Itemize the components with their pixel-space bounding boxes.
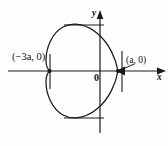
cardioid-figure: (−3a, 0) (a, 0) 0 y x — [0, 0, 168, 146]
plot-canvas — [0, 0, 168, 146]
point-marker-left-vertex — [47, 69, 51, 73]
label-origin: 0 — [94, 73, 99, 83]
y-axis-arrowhead — [97, 10, 104, 19]
label-cusp-point: (a, 0) — [126, 56, 146, 66]
label-y-axis: y — [92, 9, 96, 19]
label-x-axis: x — [157, 73, 162, 83]
label-left-vertex: (−3a, 0) — [12, 52, 45, 63]
